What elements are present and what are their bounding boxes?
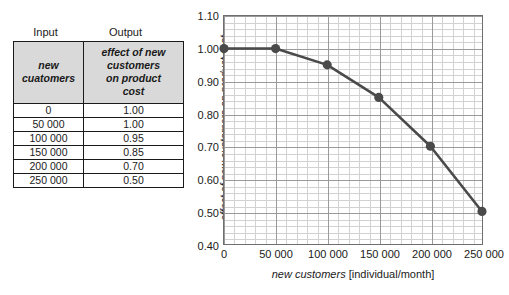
y-axis-tick-label: 0.70 — [198, 141, 219, 153]
y-axis-tick-label: 1.00 — [198, 43, 219, 55]
x-axis-label: new customers [individual/month] — [223, 268, 483, 280]
table-header-input: new cuatomers — [14, 42, 84, 104]
header-output-line-2: customers — [86, 59, 181, 72]
data-point-marker — [477, 207, 486, 216]
x-axis-tick-label: 100 000 — [308, 248, 348, 260]
cell-input-value: 150 000 — [14, 146, 84, 160]
data-point-marker — [271, 44, 280, 53]
cell-input-value: 200 000 — [14, 160, 84, 174]
lookup-table: new cuatomers effect of new customers on… — [13, 41, 184, 188]
x-axis-tick-label: 200 000 — [412, 248, 452, 260]
data-point-marker — [323, 60, 332, 69]
lookup-table-panel: Input Output new cuatomers effect of new… — [13, 24, 173, 188]
cell-input-value: 50 000 — [14, 118, 84, 132]
plot-area: 0.400.500.600.700.800.901.001.10050 0001… — [223, 15, 483, 245]
table-row: 150 0000.85 — [14, 146, 184, 160]
cell-output-value: 0.85 — [84, 146, 184, 160]
cell-output-value: 0.70 — [84, 160, 184, 174]
table-header-output: effect of new customers on product cost — [84, 42, 184, 104]
table-column-group-labels: Input Output — [13, 24, 173, 41]
y-axis-tick-label: 0.40 — [198, 240, 219, 252]
table-row: 250 0000.50 — [14, 174, 184, 188]
table-row: 01.00 — [14, 104, 184, 118]
table-body: 01.0050 0001.00100 0000.95150 0000.85200… — [14, 104, 184, 188]
y-axis-tick-label: 0.80 — [198, 109, 219, 121]
table-row: 200 0000.70 — [14, 160, 184, 174]
cell-output-value: 0.95 — [84, 132, 184, 146]
x-axis-label-unit: [individual/month] — [349, 268, 435, 280]
table-row: 50 0001.00 — [14, 118, 184, 132]
data-point-marker — [219, 44, 228, 53]
header-output-line-4: cost — [86, 85, 181, 98]
chart-panel: effect of new customers on product cost … — [186, 0, 509, 295]
header-input-line-1: new — [16, 59, 81, 72]
series-line-chart — [224, 16, 482, 244]
x-axis-tick-label: 50 000 — [259, 248, 293, 260]
cell-input-value: 0 — [14, 104, 84, 118]
cell-input-value: 250 000 — [14, 174, 84, 188]
y-axis-tick-label: 0.90 — [198, 76, 219, 88]
cell-output-value: 0.50 — [84, 174, 184, 188]
output-group-label: Output — [78, 24, 173, 41]
table-row: 100 0000.95 — [14, 132, 184, 146]
table-header-row: new cuatomers effect of new customers on… — [14, 42, 184, 104]
y-axis-tick-label: 0.60 — [198, 174, 219, 186]
header-input-line-2: cuatomers — [16, 72, 81, 85]
x-axis-tick-label: 0 — [221, 248, 227, 260]
input-group-label: Input — [13, 24, 78, 41]
header-output-line-3: on product — [86, 72, 181, 85]
table-header: new cuatomers effect of new customers on… — [14, 42, 184, 104]
y-axis-tick-label: 1.10 — [198, 10, 219, 22]
series-markers — [219, 44, 486, 216]
cell-input-value: 100 000 — [14, 132, 84, 146]
data-point-marker — [374, 93, 383, 102]
x-axis-tick-label: 250 000 — [464, 248, 504, 260]
header-output-line-1: effect of new — [86, 46, 181, 59]
cell-output-value: 1.00 — [84, 118, 184, 132]
series-polyline — [224, 49, 482, 212]
x-axis-label-quantity: new customers — [272, 268, 346, 280]
y-axis-tick-label: 0.50 — [198, 207, 219, 219]
cell-output-value: 1.00 — [84, 104, 184, 118]
data-point-marker — [426, 142, 435, 151]
x-axis-tick-label: 150 000 — [360, 248, 400, 260]
